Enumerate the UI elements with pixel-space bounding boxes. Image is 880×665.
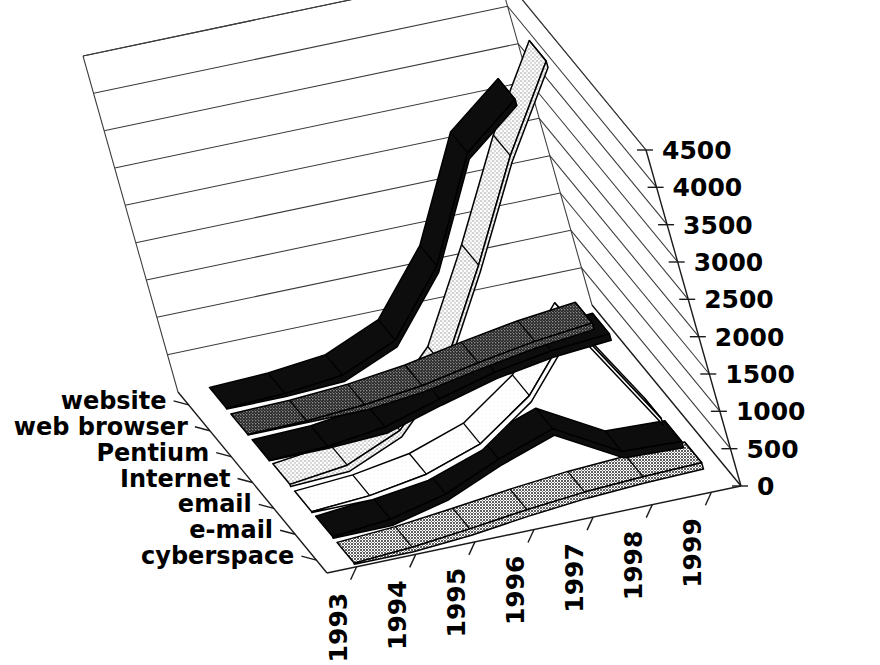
year-axis-label: 1998 — [619, 531, 648, 601]
value-tick-label: 500 — [746, 435, 798, 464]
year-tick-1996 — [528, 530, 534, 543]
year-axis-label: 1994 — [383, 580, 412, 650]
year-tick-1999 — [705, 492, 711, 505]
value-tick-label: 4000 — [673, 173, 743, 202]
value-tick-label: 4500 — [662, 136, 732, 165]
year-tick-1994 — [410, 554, 416, 567]
term-axis-label: e-mail — [189, 516, 273, 544]
chart-3d-ribbon: 050010001500200025003000350040004500 web… — [0, 0, 880, 665]
year-axis-label: 1997 — [560, 543, 589, 613]
year-axis-label: 1996 — [501, 556, 530, 626]
value-tick-label: 1000 — [736, 397, 806, 426]
chart-canvas: 050010001500200025003000350040004500 web… — [0, 0, 880, 665]
term-axis-label: Internet — [120, 465, 230, 493]
value-tick-label: 2000 — [715, 323, 785, 352]
year-tick-1998 — [646, 505, 652, 518]
year-axis-label: 1999 — [678, 518, 707, 588]
term-axis-label: cyberspace — [141, 542, 294, 570]
value-tick-label: 3000 — [694, 248, 764, 277]
year-tick-1993 — [351, 567, 357, 580]
value-tick-label: 1500 — [725, 360, 795, 389]
term-axis-label: web browser — [14, 413, 188, 441]
value-tick-label: 2500 — [704, 285, 774, 314]
year-axis-label: 1995 — [442, 568, 471, 638]
value-tick-label: 0 — [757, 472, 774, 501]
year-axis-label: 1993 — [324, 593, 353, 663]
term-axis-label: email — [178, 490, 252, 518]
value-tick-label: 3500 — [683, 211, 753, 240]
year-tick-1997 — [587, 517, 593, 530]
year-tick-1995 — [469, 542, 475, 555]
term-axis-label: Pentium — [96, 439, 209, 467]
term-axis-label: website — [61, 387, 167, 415]
